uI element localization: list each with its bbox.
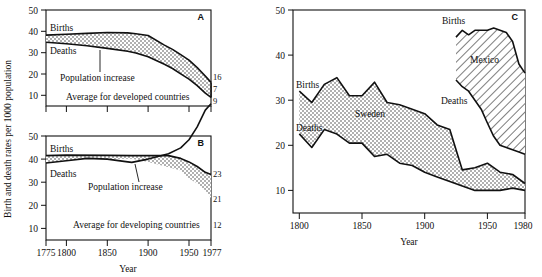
panel-c: 50 40 30 20 10 1800 1850 1900 1950 1980 … bbox=[276, 6, 533, 248]
panel-c-sweden-label: Sweden bbox=[355, 109, 385, 119]
panel-b-xlabel-1950: 1950 bbox=[180, 248, 199, 258]
panel-b-ylabel-30: 30 bbox=[29, 178, 39, 188]
figure-svg: Birth and death rates per 1000 populatio… bbox=[0, 0, 542, 277]
panel-c-ylabel-40: 40 bbox=[276, 51, 286, 61]
panel-b-caption: Average for developing countries bbox=[73, 220, 200, 230]
panel-b-region-label: Population increase bbox=[88, 182, 163, 192]
panel-a-region-label: Population increase bbox=[60, 73, 135, 83]
panel-a-endpoint-increase: 7 bbox=[213, 84, 217, 94]
panel-a-ylabel-30: 30 bbox=[29, 48, 39, 58]
panel-a-population-increase-band bbox=[46, 33, 211, 98]
panel-a-letter: A bbox=[198, 12, 205, 22]
panel-a-deaths-label: Deaths bbox=[50, 46, 77, 56]
panel-c-mexico-deaths-label: Deaths bbox=[441, 96, 468, 106]
panel-b-xlabel-1800: 1800 bbox=[57, 248, 76, 258]
panel-a-births-label: Births bbox=[50, 23, 74, 33]
panel-b-births-label: Births bbox=[50, 144, 74, 154]
panel-a-y-axis: 50 40 30 20 10 bbox=[29, 6, 47, 101]
demographic-transition-figure: Birth and death rates per 1000 populatio… bbox=[0, 0, 542, 277]
panel-b-y-axis: 50 40 30 20 10 bbox=[29, 132, 47, 234]
panel-a-caption: Average for developed countries bbox=[66, 92, 190, 102]
panel-b-xlabel-1850: 1850 bbox=[98, 248, 117, 258]
panel-c-ylabel-30: 30 bbox=[276, 96, 286, 106]
panel-c-sweden-deaths-label: Deaths bbox=[296, 123, 323, 133]
panel-b-ylabel-50: 50 bbox=[29, 132, 39, 142]
panel-b-endpoint-increase: 21 bbox=[213, 194, 222, 204]
panel-b-deaths-line bbox=[46, 104, 211, 163]
panel-c-xlabel-1900: 1900 bbox=[415, 221, 434, 231]
panel-c-mexico-label: Mexico bbox=[470, 55, 499, 65]
panel-b-xlabel-1900: 1900 bbox=[139, 248, 158, 258]
panel-b-deaths-label: Deaths bbox=[50, 169, 77, 179]
panel-a: 50 40 30 20 10 Births Deaths Population … bbox=[29, 6, 222, 113]
y-axis-title: Birth and death rates per 1000 populatio… bbox=[3, 60, 13, 218]
panel-c-ylabel-10: 10 bbox=[276, 186, 286, 196]
y-axis-title-group: Birth and death rates per 1000 populatio… bbox=[3, 60, 13, 218]
panel-c-xlabel-1850: 1850 bbox=[353, 221, 372, 231]
panel-b-endpoint-deaths: 12 bbox=[213, 220, 222, 230]
panel-b: 50 40 30 20 10 1775 1800 1850 1900 1950 … bbox=[29, 104, 222, 258]
panel-c-ylabel-50: 50 bbox=[276, 6, 286, 16]
panel-b-xlabel-1977: 1977 bbox=[203, 248, 222, 258]
panel-c-mexico-births-label: Births bbox=[442, 16, 466, 26]
panel-c-sweden-births-label: Births bbox=[296, 80, 320, 90]
panel-a-ylabel-50: 50 bbox=[29, 6, 39, 16]
panel-b-region-leader bbox=[135, 164, 139, 182]
panel-b-ylabel-40: 40 bbox=[29, 155, 39, 165]
panel-a-ylabel-20: 20 bbox=[29, 70, 39, 80]
panel-c-xlabel-1800: 1800 bbox=[290, 221, 309, 231]
panel-c-x-axis-title: Year bbox=[400, 237, 418, 247]
panel-b-x-axis: 1775 1800 1850 1900 1950 1977 bbox=[37, 240, 222, 258]
panel-b-endpoint-births: 23 bbox=[213, 169, 222, 179]
panel-c-y-axis: 50 40 30 20 10 bbox=[276, 6, 294, 196]
panel-ab-x-axis-title: Year bbox=[119, 264, 137, 274]
panel-a-endpoint-births: 16 bbox=[213, 72, 222, 82]
panel-a-ylabel-10: 10 bbox=[29, 91, 39, 101]
panel-c-xlabel-1980: 1980 bbox=[514, 221, 533, 231]
panel-b-ylabel-10: 10 bbox=[29, 224, 39, 234]
panel-b-xlabel-1775: 1775 bbox=[37, 248, 56, 258]
panel-b-letter: B bbox=[198, 138, 205, 148]
panel-c-letter: C bbox=[512, 12, 519, 22]
panel-a-x-axis bbox=[46, 106, 211, 112]
panel-c-xlabel-1950: 1950 bbox=[478, 221, 497, 231]
panel-a-ylabel-40: 40 bbox=[29, 27, 39, 37]
panel-c-ylabel-20: 20 bbox=[276, 141, 286, 151]
panel-a-endpoint-deaths: 9 bbox=[213, 96, 217, 106]
panel-b-ylabel-20: 20 bbox=[29, 201, 39, 211]
panel-c-x-axis: 1800 1850 1900 1950 1980 bbox=[290, 213, 533, 231]
